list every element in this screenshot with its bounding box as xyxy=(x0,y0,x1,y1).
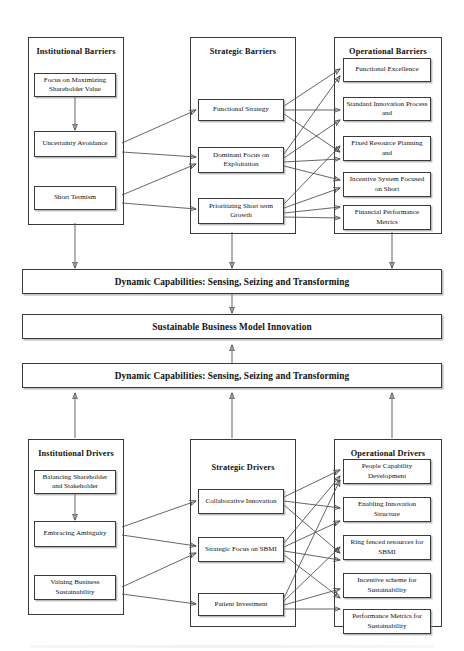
page-scan-artifact xyxy=(30,645,434,648)
banner-sustainable-business-model-innovation[interactable]: Sustainable Business Model Innovation xyxy=(22,314,442,339)
node-dominant-focus-exploitation[interactable]: Dominant Focus on Exploitation xyxy=(198,147,284,173)
node-incentive-scheme-sustainability[interactable]: Incentive scheme for Sustainability xyxy=(343,573,431,598)
node-patient-investment[interactable]: Patient Investment xyxy=(198,593,284,616)
group-title-institutional-barriers: Institutional Barriers xyxy=(29,47,123,56)
group-title-operational-drivers: Operational Drivers xyxy=(335,449,441,458)
node-standard-innovation-process[interactable]: Standard Innovation Process and xyxy=(343,97,431,121)
node-collaborative-innovation[interactable]: Collaborative Innovation xyxy=(198,489,284,514)
node-incentive-system-short[interactable]: Incentive System Focused on Short xyxy=(343,172,431,197)
node-strategic-focus-sbmi[interactable]: Strategic Focus on SBMI xyxy=(198,537,284,562)
node-fixed-resource-planning[interactable]: Fixed Resource Planning and xyxy=(343,136,431,161)
node-functional-strategy[interactable]: Functional Strategy xyxy=(198,99,284,121)
group-title-operational-barriers: Operational Barriers xyxy=(335,47,441,56)
node-performance-metrics-sustainability[interactable]: Performance Metrics for Sustainability xyxy=(343,609,431,634)
group-title-strategic-drivers: Strategic Drivers xyxy=(191,463,295,472)
banner-dynamic-capabilities-bottom[interactable]: Dynamic Capabilities: Sensing, Seizing a… xyxy=(22,363,442,388)
node-balancing-shareholder-stakeholder[interactable]: Balancing Shareholder and Stakeholder xyxy=(34,470,116,494)
diagram-canvas: Institutional Barriers Focus on Maximizi… xyxy=(0,0,464,651)
node-enabling-innovation-structure[interactable]: Enabling Innovation Structure xyxy=(343,497,431,522)
node-valuing-business-sustainability[interactable]: Valuing Business Sustainability xyxy=(34,575,116,600)
node-embracing-ambiguity[interactable]: Embracing Ambiguity xyxy=(34,521,116,547)
node-functional-excellence[interactable]: Functional Excellence xyxy=(343,58,431,82)
node-short-termism[interactable]: Short Termism xyxy=(34,186,116,210)
node-prioritizing-short-term-growth[interactable]: Prioritizing Short term Growth xyxy=(198,198,284,224)
node-financial-performance-metrics[interactable]: Financial Performance Metrics xyxy=(343,205,431,230)
group-title-strategic-barriers: Strategic Barriers xyxy=(191,47,295,56)
banner-dynamic-capabilities-top[interactable]: Dynamic Capabilities: Sensing, Seizing a… xyxy=(22,269,442,294)
node-focus-maximizing-shareholder-value[interactable]: Focus on Maximizing Shareholder Value xyxy=(34,73,116,97)
node-uncertainty-avoidance[interactable]: Uncertainty Avoidance xyxy=(34,131,116,157)
node-ring-fenced-resources-sbmi[interactable]: Ring fenced resources for SBMI xyxy=(343,535,431,560)
node-people-capability-development[interactable]: People Capability Development xyxy=(343,459,431,484)
group-title-institutional-drivers: Institutional Drivers xyxy=(29,449,123,458)
